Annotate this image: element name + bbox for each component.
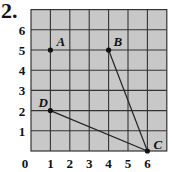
point-label-A: A bbox=[55, 34, 65, 49]
point-A bbox=[48, 47, 53, 52]
x-tick-label: 4 bbox=[105, 156, 112, 171]
x-tick-label: 5 bbox=[125, 156, 132, 171]
point-C bbox=[145, 148, 150, 153]
y-tick-label: 3 bbox=[19, 83, 26, 98]
x-tick-label: 6 bbox=[144, 156, 151, 171]
x-tick-label: 1 bbox=[47, 156, 54, 171]
point-D bbox=[48, 108, 53, 113]
y-tick-label: 1 bbox=[19, 124, 26, 139]
y-tick-label: 6 bbox=[19, 23, 26, 38]
point-B bbox=[106, 47, 111, 52]
point-label-B: B bbox=[113, 34, 123, 49]
y-tick-label: 4 bbox=[19, 63, 26, 78]
x-tick-label: 3 bbox=[86, 156, 93, 171]
y-tick-label: 5 bbox=[19, 43, 26, 58]
point-label-C: C bbox=[153, 137, 162, 152]
x-tick-label: 0 bbox=[22, 156, 29, 171]
y-tick-label: 2 bbox=[19, 104, 26, 119]
coordinate-grid: 0123456123456ABCD bbox=[0, 0, 172, 172]
point-label-D: D bbox=[37, 95, 48, 110]
x-tick-label: 2 bbox=[67, 156, 74, 171]
grid-background bbox=[31, 10, 167, 151]
